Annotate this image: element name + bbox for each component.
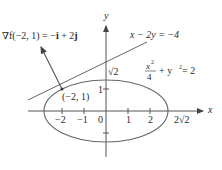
tangent-line-label: x − 2y = −4 [129, 29, 179, 40]
gradient-tangent-diagram: y x −2 −1 0 1 2 2√2 1 √2 (−2, 1) x − 2y … [0, 0, 222, 170]
x-tick-label-neg2: −2 [55, 114, 66, 125]
gradient-label: ∇f(−2, 1) = −i + 2j [2, 30, 78, 42]
ellipse-equation-label: x 2 4 + y 2 = 2 [145, 59, 195, 82]
x-axis-label: x [207, 104, 213, 115]
y-axis-label: y [103, 10, 109, 21]
y-tick-label-1: 1 [98, 84, 103, 95]
diagram-canvas: y x −2 −1 0 1 2 2√2 1 √2 (−2, 1) x − 2y … [0, 0, 222, 170]
point-label: (−2, 1) [62, 91, 89, 103]
x-tick-label-0: 0 [98, 114, 103, 125]
y-intercept-label: √2 [108, 66, 119, 77]
svg-text:4: 4 [147, 72, 152, 82]
gradient-vector-arrow [41, 47, 62, 89]
x-tick-label-1: 1 [126, 114, 131, 125]
svg-text:+ y: + y [159, 65, 172, 76]
x-tick-label-neg1: −1 [77, 114, 88, 125]
x-tick-label-2: 2 [148, 114, 153, 125]
svg-text:2: 2 [151, 59, 154, 65]
svg-text:= 2: = 2 [182, 65, 195, 76]
svg-text:x: x [145, 61, 150, 71]
x-intercept-label: 2√2 [174, 114, 190, 125]
